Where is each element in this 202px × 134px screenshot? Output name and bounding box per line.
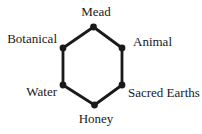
vertex-dot-mead <box>90 24 97 31</box>
vertex-dot-honey <box>91 102 98 109</box>
node-label-animal: Animal <box>133 35 172 48</box>
node-label-water: Water <box>26 85 57 98</box>
vertex-dot-water <box>60 82 67 89</box>
node-label-sacred-earths: Sacred Earths <box>128 86 200 99</box>
vertex-dot-animal <box>119 45 126 52</box>
node-label-honey: Honey <box>79 112 114 125</box>
vertex-dot-sacred-earths <box>119 82 126 89</box>
hexagon-diagram: Mead Animal Sacred Earths Honey Water Bo… <box>0 0 202 134</box>
node-label-mead: Mead <box>81 5 111 18</box>
node-label-botanical: Botanical <box>7 32 57 45</box>
hexagon-outline <box>63 27 122 105</box>
vertex-dot-botanical <box>60 45 67 52</box>
